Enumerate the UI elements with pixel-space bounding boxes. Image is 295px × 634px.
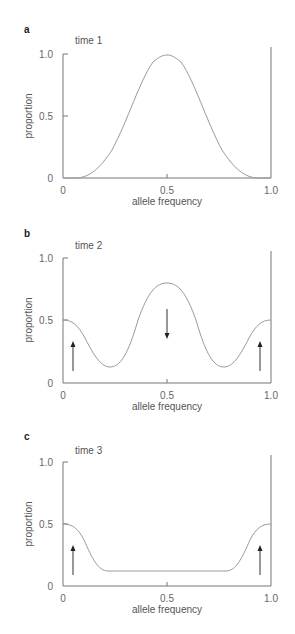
y-tick-label-0: 0: [47, 173, 53, 184]
arrowhead-up-icon: [258, 341, 263, 347]
x-tick-label-0: 0: [60, 185, 66, 196]
y-axis-label: proportion: [23, 93, 34, 138]
x-tick-label-1: 1.0: [264, 593, 278, 604]
x-tick-label-05: 0.5: [160, 185, 174, 196]
arrowhead-down-icon: [165, 333, 170, 339]
y-axis-label: proportion: [23, 297, 34, 342]
distribution-curve: [63, 524, 271, 571]
panel-letter-b: b: [24, 228, 30, 239]
y-tick-label-05: 0.5: [39, 111, 53, 122]
panel-a-title: time 1: [75, 35, 103, 46]
y-tick-label-05: 0.5: [39, 315, 53, 326]
x-tick-label-1: 1.0: [264, 185, 278, 196]
arrowhead-up-icon: [71, 341, 76, 347]
x-tick-label-0: 0: [60, 390, 66, 401]
x-tick-label-1: 1.0: [264, 390, 278, 401]
x-axis-label: allele frequency: [132, 401, 202, 412]
panel-letter-a: a: [24, 24, 30, 35]
figure-canvas: a time 1 1.0 0.5 0 0 0.5 1.0 allele freq…: [0, 0, 295, 634]
panel-a: a time 1 1.0 0.5 0 0 0.5 1.0 allele freq…: [23, 24, 278, 207]
arrowhead-up-icon: [258, 545, 263, 551]
y-tick-label-1: 1.0: [39, 457, 53, 468]
x-tick-label-0: 0: [60, 593, 66, 604]
x-axis-label: allele frequency: [132, 604, 202, 615]
panel-letter-c: c: [24, 431, 30, 442]
y-axis-label: proportion: [23, 501, 34, 546]
panel-c-title: time 3: [75, 445, 103, 456]
distribution-curve: [63, 55, 271, 178]
y-tick-label-1: 1.0: [39, 253, 53, 264]
x-axis-label: allele frequency: [132, 196, 202, 207]
x-tick-label-05: 0.5: [160, 390, 174, 401]
x-tick-label-05: 0.5: [160, 593, 174, 604]
y-tick-label-0: 0: [47, 378, 53, 389]
y-tick-label-05: 0.5: [39, 519, 53, 530]
y-tick-label-1: 1.0: [39, 49, 53, 60]
panel-c: c time 3 1.0 0.5 0 0 0.5 1.0 allele freq…: [23, 431, 278, 615]
arrowhead-up-icon: [71, 545, 76, 551]
panel-b: b time 2 1.0 0.5 0 0 0.5 1.0 allele freq…: [23, 228, 278, 412]
panel-b-title: time 2: [75, 240, 103, 251]
y-tick-label-0: 0: [47, 581, 53, 592]
